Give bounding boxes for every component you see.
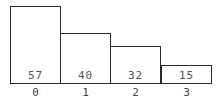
bar-value-label: 32 bbox=[110, 69, 161, 82]
x-tick-label: 2 bbox=[110, 86, 161, 99]
x-tick-label: 3 bbox=[161, 86, 212, 99]
x-tick-label: 0 bbox=[10, 86, 61, 99]
bar-chart: 57 40 32 15 0 1 2 3 bbox=[0, 0, 224, 104]
x-tick-label: 1 bbox=[60, 86, 111, 99]
bar-value-label: 40 bbox=[60, 69, 111, 82]
bar-value-label: 57 bbox=[10, 69, 61, 82]
bar-value-label: 15 bbox=[161, 69, 212, 82]
